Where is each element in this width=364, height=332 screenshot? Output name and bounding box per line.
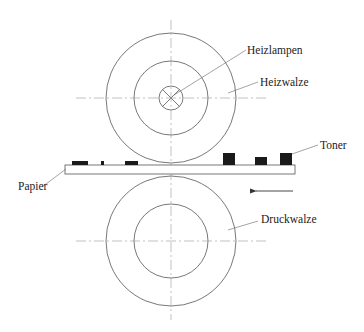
toner-particle (72, 161, 88, 165)
label-heizlampen: Heizlampen (247, 45, 303, 57)
fuser-diagram: Heizlampen Heizwalze Toner Papier Druckw… (0, 0, 364, 332)
label-heizwalze: Heizwalze (260, 77, 309, 89)
diagram-drawing (0, 0, 364, 332)
paper-sheet (65, 165, 295, 174)
toner-particle (101, 161, 104, 165)
toner-particle (125, 161, 138, 165)
toner-particle (223, 153, 235, 165)
leader-line (228, 221, 258, 230)
label-toner: Toner (320, 140, 347, 152)
toner-particle (280, 153, 292, 165)
leader-line (228, 82, 258, 93)
paper-rect (65, 165, 295, 174)
toner-particle (255, 157, 267, 165)
toner-particles (72, 153, 292, 165)
heizwalze-roller (76, 20, 267, 170)
leader-line (292, 145, 318, 154)
label-papier: Papier (18, 181, 47, 193)
label-druckwalze: Druckwalze (261, 214, 317, 226)
druckwalze-roller (76, 170, 267, 320)
